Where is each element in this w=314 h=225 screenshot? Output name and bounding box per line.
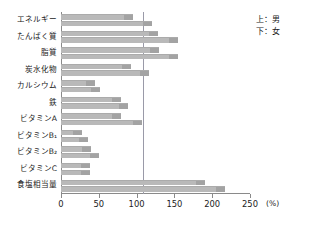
bar-end-cap — [119, 104, 128, 108]
bar-end-cap — [79, 138, 88, 142]
bar-female — [61, 186, 225, 191]
bar-group — [61, 128, 250, 145]
x-axis: 050100150200250 — [61, 194, 250, 220]
bar-end-cap — [216, 187, 225, 191]
bar-group — [61, 29, 250, 46]
x-axis-unit-label: (%) — [266, 199, 279, 208]
category-label: たんぱく質 — [0, 29, 57, 46]
bar-female — [61, 170, 90, 175]
x-axis-tick-label: 100 — [129, 199, 145, 209]
bar-male — [61, 31, 158, 36]
bar-group — [61, 177, 250, 194]
bar-end-cap — [81, 164, 90, 168]
x-axis-tick-label: 150 — [166, 199, 182, 209]
bar-row: 炭水化物 — [0, 62, 314, 79]
bar-female — [61, 21, 152, 26]
bar-male — [61, 14, 133, 19]
bar-row: 食塩相当量 — [0, 177, 314, 194]
category-label: 脂質 — [0, 45, 57, 62]
bar-end-cap — [140, 71, 149, 75]
category-label: 鉄 — [0, 95, 57, 112]
bar-female — [61, 70, 149, 75]
bar-row: カルシウム — [0, 78, 314, 95]
bar-row: ビタミンB₂ — [0, 144, 314, 161]
x-axis-tick — [137, 194, 138, 198]
bar-group — [61, 12, 250, 29]
bar-end-cap — [149, 32, 158, 36]
bar-end-cap — [81, 171, 90, 175]
bar-group — [61, 78, 250, 95]
bar-end-cap — [143, 22, 152, 26]
category-label: カルシウム — [0, 78, 57, 95]
bar-male — [61, 146, 91, 151]
bar-end-cap — [133, 121, 142, 125]
bar-group — [61, 111, 250, 128]
bar-row: ビタミンC — [0, 161, 314, 178]
bar-male — [61, 97, 121, 102]
bar-male — [61, 64, 131, 69]
bar-end-cap — [196, 181, 205, 185]
bar-female — [61, 103, 128, 108]
bar-group — [61, 62, 250, 79]
x-axis-tick — [174, 194, 175, 198]
bar-group — [61, 95, 250, 112]
bar-male — [61, 130, 82, 135]
x-axis-tick — [212, 194, 213, 198]
bar-female — [61, 37, 178, 42]
category-label: ビタミンC — [0, 161, 57, 178]
bar-female — [61, 120, 142, 125]
category-label: ビタミンA — [0, 111, 57, 128]
bar-group — [61, 161, 250, 178]
bar-male — [61, 80, 95, 85]
bar-end-cap — [124, 15, 133, 19]
bar-female — [61, 137, 88, 142]
category-label: ビタミンB₁ — [0, 128, 57, 145]
bar-female — [61, 153, 99, 158]
x-axis-tick-label: 50 — [93, 199, 104, 209]
bar-row: ビタミンA — [0, 111, 314, 128]
bar-end-cap — [91, 88, 100, 92]
category-label: 炭水化物 — [0, 62, 57, 79]
bar-end-cap — [82, 147, 91, 151]
bar-end-cap — [112, 114, 121, 118]
category-label: ビタミンB₂ — [0, 144, 57, 161]
bar-end-cap — [90, 154, 99, 158]
bar-row: たんぱく質 — [0, 29, 314, 46]
bar-female — [61, 54, 178, 59]
bar-row: 鉄 — [0, 95, 314, 112]
x-axis-tick — [250, 194, 251, 198]
x-axis-tick-label: 250 — [242, 199, 258, 209]
bar-end-cap — [122, 65, 131, 69]
bar-end-cap — [169, 38, 178, 42]
x-axis-tick — [99, 194, 100, 198]
bar-female — [61, 87, 100, 92]
x-axis-tick — [61, 194, 62, 198]
bar-male — [61, 47, 159, 52]
bar-male — [61, 163, 90, 168]
category-label: 食塩相当量 — [0, 177, 57, 194]
bar-male — [61, 113, 121, 118]
bar-end-cap — [86, 81, 95, 85]
category-label: エネルギー — [0, 12, 57, 29]
bar-group — [61, 144, 250, 161]
bar-male — [61, 180, 205, 185]
bar-end-cap — [150, 48, 159, 52]
chart-root: 上：男 下：女 エネルギーたんぱく質脂質炭水化物カルシウム鉄ビタミンAビタミンB… — [0, 0, 314, 225]
x-axis-tick-label: 0 — [58, 199, 63, 209]
bar-rows: エネルギーたんぱく質脂質炭水化物カルシウム鉄ビタミンAビタミンB₁ビタミンB₂ビ… — [0, 12, 314, 194]
bar-end-cap — [169, 55, 178, 59]
bar-row: 脂質 — [0, 45, 314, 62]
bar-row: エネルギー — [0, 12, 314, 29]
bar-group — [61, 45, 250, 62]
x-axis-tick-label: 200 — [204, 199, 220, 209]
bar-end-cap — [112, 98, 121, 102]
bar-row: ビタミンB₁ — [0, 128, 314, 145]
bar-end-cap — [73, 131, 82, 135]
